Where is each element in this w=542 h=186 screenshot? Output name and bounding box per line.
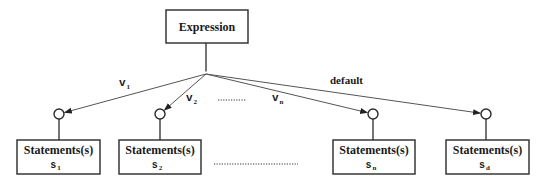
edge-label-s1: v1: [119, 77, 131, 91]
branch-arrow-s1: [65, 74, 206, 112]
switch-flow-diagram: ExpressionStatements(s)s1Statements(s)s2…: [0, 0, 542, 186]
statement-title: Statements(s): [24, 143, 93, 157]
statement-node-sd: Statements(s)sd: [446, 140, 529, 174]
statement-node-sn: Statements(s)sn: [333, 140, 415, 174]
expression-label: Expression: [179, 20, 236, 34]
expression-node: Expression: [166, 10, 248, 43]
connector-circle-s2: [155, 109, 165, 119]
statement-title: Statements(s): [339, 143, 408, 157]
statement-node-s2: Statements(s)s2: [119, 140, 201, 174]
connector-circle-sn: [368, 109, 378, 119]
statement-node-s1: Statements(s)s1: [17, 140, 100, 174]
edge-label-s2: v2: [186, 92, 198, 106]
diagram-canvas: ExpressionStatements(s)s1Statements(s)s2…: [0, 0, 542, 186]
connector-circle-s1: [54, 109, 64, 119]
statement-title: Statements(s): [125, 143, 194, 157]
edge-label-sn: vn: [272, 92, 284, 106]
edge-label-default: default: [330, 74, 363, 86]
connector-circle-sd: [481, 109, 491, 119]
statement-title: Statements(s): [453, 143, 522, 157]
